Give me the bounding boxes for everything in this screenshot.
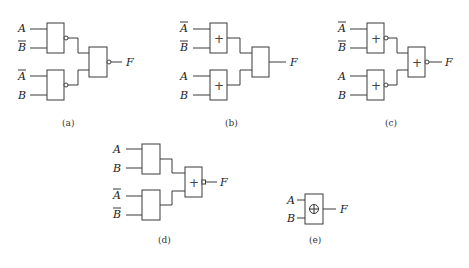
input-label-a4: B (17, 89, 26, 102)
xor-symbol-icon (310, 205, 319, 214)
input-label-a2: B (17, 41, 26, 54)
or-symbol: + (189, 176, 199, 190)
input-label-b2: B (179, 41, 188, 54)
or-symbol: + (214, 32, 224, 46)
circuit-b: A B A B + + F (b) (179, 22, 298, 128)
output-label-f: F (219, 176, 228, 189)
and-gate-1 (142, 144, 160, 174)
inversion-bubble (384, 83, 388, 87)
or-symbol: + (214, 79, 224, 93)
output-label-f: F (125, 56, 134, 69)
input-label-c3: A (337, 70, 346, 83)
and-gate-2 (142, 190, 160, 220)
inversion-bubble (384, 36, 388, 40)
and-gate-2 (47, 70, 64, 100)
circuit-d: A B A B + F (d) (112, 143, 228, 245)
input-label-a1: A (17, 22, 26, 35)
inversion-bubble (425, 60, 429, 64)
and-gate-1 (47, 23, 64, 53)
inversion-bubble (64, 83, 68, 87)
output-label-f: F (289, 56, 298, 69)
inversion-bubble (202, 180, 206, 184)
caption-d: (d) (158, 235, 171, 245)
input-label-d2: B (112, 162, 121, 175)
or-symbol: + (371, 32, 381, 46)
input-label-b3: A (179, 70, 188, 83)
or-symbol: + (412, 56, 422, 70)
output-gate (89, 47, 107, 77)
input-label-e1: A (286, 194, 295, 207)
circuit-a: A B A B F (a) (17, 22, 134, 128)
caption-c: (c) (385, 118, 397, 128)
logic-circuits-figure: A B A B F (a) A B A B + (0, 0, 469, 268)
input-label-d3: A (112, 189, 121, 202)
input-label-c2: B (337, 41, 346, 54)
caption-a: (a) (62, 118, 74, 128)
caption-b: (b) (225, 118, 238, 128)
and-output-gate (252, 47, 269, 77)
or-symbol: + (371, 79, 381, 93)
input-label-b1: A (179, 22, 188, 35)
output-label-f: F (339, 203, 348, 216)
output-label-f: F (444, 56, 453, 69)
input-label-d4: B (112, 208, 121, 221)
circuit-e: A B F (e) (286, 194, 348, 245)
input-label-e2: B (286, 212, 295, 225)
input-label-d1: A (112, 143, 121, 156)
inversion-bubble (64, 36, 68, 40)
circuit-c: A B A B + + + F (c) (337, 22, 453, 128)
inversion-bubble (107, 60, 111, 64)
input-label-a3: A (17, 70, 26, 83)
input-label-b4: B (179, 89, 188, 102)
caption-e: (e) (309, 235, 321, 245)
input-label-c4: B (337, 89, 346, 102)
input-label-c1: A (337, 22, 346, 35)
